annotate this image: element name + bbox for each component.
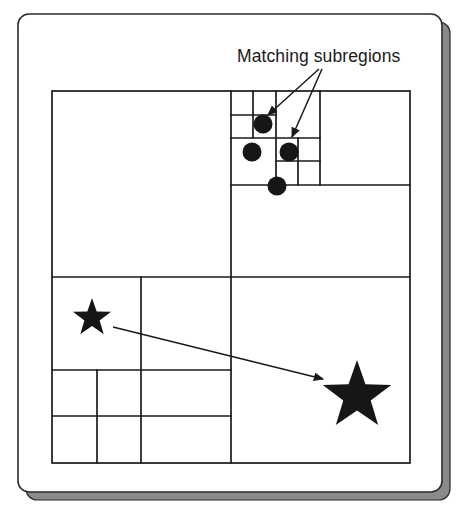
- dot-2: [243, 143, 262, 162]
- matching-subregions-label: Matching subregions: [237, 46, 401, 66]
- figure-canvas: Matching subregions: [0, 0, 463, 508]
- dot-4: [268, 177, 287, 196]
- frame-plate: [18, 14, 442, 492]
- dot-3: [280, 143, 299, 162]
- diagram-svg: Matching subregions: [0, 0, 463, 508]
- dot-1: [254, 115, 273, 134]
